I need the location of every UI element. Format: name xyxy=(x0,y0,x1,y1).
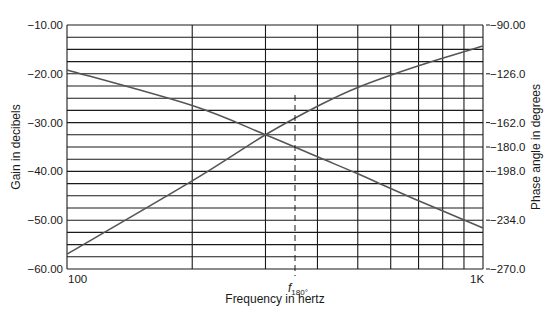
y-tick-right: −270.0 xyxy=(490,263,526,275)
y-tick-left: −20.00 xyxy=(28,68,64,80)
y-tick-left: −30.00 xyxy=(28,117,64,129)
y-tick-right: −90.00 xyxy=(490,19,526,31)
y-axis-label-left: Gain in decibels xyxy=(9,104,23,189)
y-tick-left: −10.00 xyxy=(28,19,64,31)
y-tick-right: −180.0 xyxy=(490,141,526,153)
y-tick-left: −50.00 xyxy=(28,214,64,226)
right-axis-ticks: −90.00−126.0−162.0−180.0−198.0−234.0−270… xyxy=(486,19,526,275)
gain-curve xyxy=(67,70,483,228)
bode-plot: −10.00−20.00−30.00−40.00−50.00−60.00 −90… xyxy=(0,0,547,313)
y-tick-left: −60.00 xyxy=(28,263,64,275)
y-tick-right: −234.0 xyxy=(490,214,526,226)
x-tick-max: 1K xyxy=(470,273,484,285)
y-tick-right: −162.0 xyxy=(490,117,526,129)
x-axis-label: Frequency in hertz xyxy=(225,292,324,306)
y-tick-right: −126.0 xyxy=(490,68,526,80)
y-tick-left: −40.00 xyxy=(28,165,64,177)
y-axis-label-right: Phase angle in degrees xyxy=(529,84,543,210)
x-tick-min: 100 xyxy=(68,273,87,285)
y-tick-right: −198.0 xyxy=(490,165,526,177)
left-axis-ticks: −10.00−20.00−30.00−40.00−50.00−60.00 xyxy=(28,19,64,275)
grid xyxy=(67,25,483,269)
curves xyxy=(67,46,483,254)
phase-curve xyxy=(67,46,483,254)
